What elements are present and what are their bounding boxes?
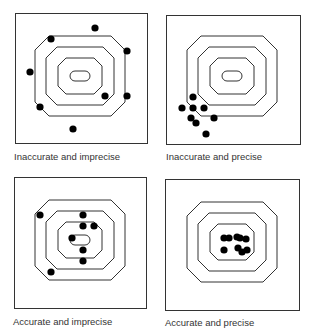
shot-dot	[202, 130, 209, 137]
target-panel-accurate-precise	[166, 180, 300, 311]
caption-inaccurate-precise: Inaccurate and precise	[166, 151, 262, 162]
shot-dot	[47, 35, 54, 42]
bullseye	[222, 71, 242, 81]
target-ring-1	[187, 36, 277, 116]
shot-dot	[123, 47, 130, 54]
shot-dot	[200, 104, 207, 111]
shot-dot	[68, 234, 75, 241]
shot-dot	[90, 222, 97, 229]
shot-dot	[189, 104, 196, 111]
target-panel-accurate-imprecise	[15, 178, 147, 309]
panel-frame	[15, 178, 147, 309]
shot-dot	[47, 268, 54, 275]
target-panel-inaccurate-precise	[167, 16, 301, 145]
shot-dot	[26, 68, 33, 75]
shot-dot	[79, 211, 86, 218]
shot-dot	[36, 211, 43, 218]
target-ring-2	[198, 47, 266, 105]
shot-dot	[189, 93, 196, 100]
shot-dot	[236, 234, 243, 241]
shot-dot	[79, 222, 86, 229]
shot-dot	[242, 235, 249, 242]
shot-dot	[69, 125, 76, 132]
shot-dot	[36, 103, 43, 110]
target-ring-1	[35, 200, 125, 280]
target-ring-1	[35, 36, 125, 116]
shot-dot	[79, 246, 86, 253]
target-ring-1	[187, 202, 277, 282]
bullseye	[70, 71, 90, 81]
shot-dot	[79, 257, 86, 264]
shot-dot	[243, 246, 250, 253]
shot-dot	[220, 246, 227, 253]
caption-accurate-precise: Accurate and precise	[165, 317, 254, 328]
shot-dot	[192, 119, 199, 126]
target-ring-3	[58, 58, 102, 94]
target-ring-3	[210, 58, 254, 94]
target-ring-2	[198, 213, 266, 271]
shot-dot	[210, 114, 217, 121]
caption-accurate-imprecise: Accurate and imprecise	[13, 316, 112, 327]
shot-dot	[178, 104, 185, 111]
panel-frame	[166, 180, 300, 311]
shot-dot	[123, 92, 130, 99]
shot-dot	[91, 24, 98, 31]
caption-inaccurate-imprecise: Inaccurate and imprecise	[14, 151, 120, 162]
shot-dot	[101, 92, 108, 99]
shot-dot	[225, 234, 232, 241]
target-panel-inaccurate-imprecise	[16, 14, 148, 144]
